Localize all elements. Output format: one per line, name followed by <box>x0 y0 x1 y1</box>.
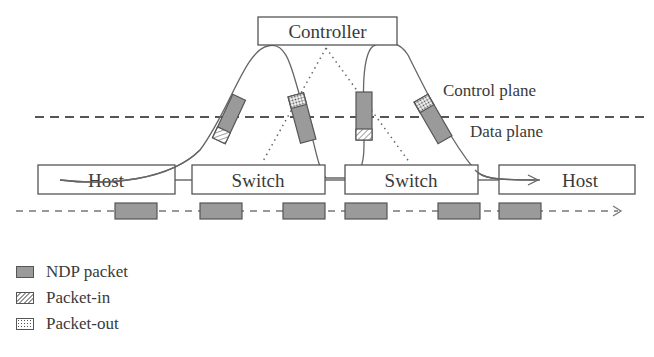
legend-item-packet-out: Packet-out <box>16 311 128 337</box>
flow-to-host-right <box>475 170 535 180</box>
ndp-packet <box>283 203 325 219</box>
switch-1-label: Switch <box>232 170 285 191</box>
legend: NDP packet Packet-in Packet-out <box>16 259 128 337</box>
controller-box: Controller <box>258 17 397 45</box>
control-plane-label: Control plane <box>443 81 536 100</box>
legend-label: Packet-out <box>46 314 119 334</box>
packet-in-1 <box>213 94 246 143</box>
ndp-packet-swatch-icon <box>16 266 34 278</box>
legend-item-ndp: NDP packet <box>16 259 128 285</box>
packet-out-1 <box>288 93 316 144</box>
packet-out-2 <box>414 94 452 144</box>
ndp-packet <box>200 203 242 219</box>
host-right-label: Host <box>562 170 599 191</box>
controller-label: Controller <box>288 21 367 42</box>
control-path-switch-to-controller <box>345 42 540 180</box>
legend-item-packet-in: Packet-in <box>16 285 128 311</box>
data-plane-label: Data plane <box>470 122 543 141</box>
legend-label: NDP packet <box>46 262 128 282</box>
ndp-packet <box>345 203 387 219</box>
ndp-packet <box>499 203 541 219</box>
flow-host-exit <box>60 150 200 182</box>
switch-2-box: Switch <box>345 165 478 194</box>
host-left-box: Host <box>38 165 175 194</box>
ndp-packet <box>115 203 157 219</box>
legend-label: Packet-in <box>46 288 110 308</box>
switch-1-box: Switch <box>192 165 325 194</box>
packet-out-swatch-icon <box>16 318 34 330</box>
switch-2-label: Switch <box>385 170 438 191</box>
packet-in-2 <box>356 92 372 140</box>
ndp-packet <box>438 203 480 219</box>
packet-in-swatch-icon <box>16 292 34 304</box>
